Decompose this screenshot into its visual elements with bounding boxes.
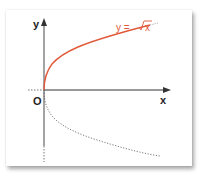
y-axis-label: y [33, 18, 40, 30]
x-axis-arrow-icon [163, 87, 171, 93]
function-label-radicand: x [145, 22, 150, 33]
sqrt-curve-dotted-tail [150, 23, 158, 25]
origin-label: O [33, 95, 42, 107]
function-label: y = x [116, 21, 152, 33]
y-axis-arrow-icon [41, 18, 47, 26]
function-label-prefix: y = [116, 22, 130, 33]
x-axis-label: x [160, 94, 167, 106]
sqrt-curve [44, 25, 150, 90]
sqrt-graph: y x O y = x [0, 0, 202, 184]
negative-sqrt-curve-dotted [44, 90, 160, 156]
